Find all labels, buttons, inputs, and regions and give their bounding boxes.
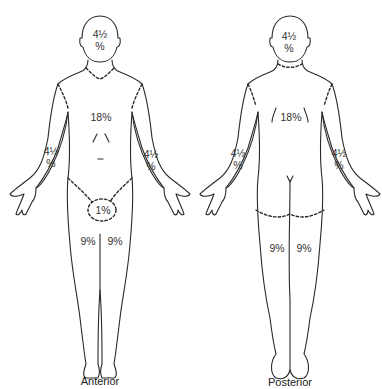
posterior-caption: Posterior [268, 376, 312, 388]
anterior-head-percent: 4½ % [93, 28, 108, 52]
anterior-figure [10, 16, 190, 378]
posterior-figure [200, 16, 380, 379]
anterior-right-leg-percent: 9% [80, 235, 95, 247]
posterior-gluteal-cleft [287, 176, 293, 182]
anterior-trunk-percent: 18% [90, 111, 111, 123]
posterior-left-arm-percent: 4½ % [231, 147, 246, 171]
anterior-left-leg-percent: 9% [107, 235, 122, 247]
anterior-groin-boundary-left [110, 178, 132, 202]
posterior-left-shoulder-boundary [248, 84, 256, 106]
anterior-right-shoulder-boundary [58, 84, 68, 108]
anterior-neck-boundary [86, 68, 114, 79]
posterior-right-shoulder-boundary [324, 84, 332, 106]
anterior-body-outline-right [100, 60, 190, 378]
posterior-back-mark-left [272, 108, 276, 122]
anterior-left-arm-percent: 4½ % [144, 148, 159, 172]
anterior-body-outline [10, 60, 100, 378]
posterior-trunk-percent: 18% [280, 111, 301, 123]
posterior-back-mark-right [304, 108, 308, 122]
posterior-left-leg-percent: 9% [269, 242, 284, 254]
body-outline-diagram [0, 0, 382, 389]
anterior-genital-percent: 1% [95, 204, 110, 216]
posterior-head-percent: 4½ % [282, 30, 297, 54]
posterior-right-leg-percent: 9% [296, 242, 311, 254]
anterior-chest-mark-left [93, 134, 97, 142]
anterior-right-arm-percent: 4½ % [44, 145, 59, 169]
posterior-neck-boundary [278, 64, 302, 67]
anterior-left-shoulder-boundary [132, 84, 142, 108]
anterior-groin-boundary-right [68, 178, 92, 202]
anterior-caption: Anterior [81, 375, 120, 387]
anterior-chest-mark-right [105, 134, 109, 142]
posterior-right-arm-percent: 4½ % [332, 147, 347, 171]
posterior-leg-divide [289, 180, 290, 370]
